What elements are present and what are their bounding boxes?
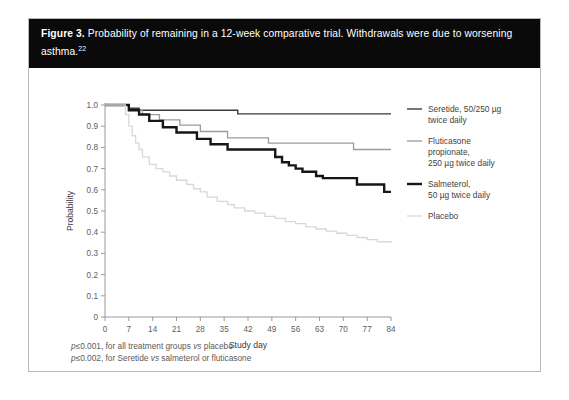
x-axis-title: Study day bbox=[229, 340, 268, 350]
curve-salmeterol bbox=[105, 105, 391, 192]
plot-area: 00.10.20.30.40.50.60.70.80.91.0071421283… bbox=[29, 68, 540, 371]
y-tick-label: 0.2 bbox=[87, 271, 99, 280]
figure-caption-text: Figure 3. Probability of remaining in a … bbox=[41, 26, 528, 59]
y-tick-label: 0.8 bbox=[87, 143, 99, 152]
x-tick-label: 14 bbox=[148, 325, 158, 334]
figure-caption: Probability of remaining in a 12-week co… bbox=[41, 28, 512, 57]
y-tick-label: 0.7 bbox=[87, 165, 99, 174]
x-tick-label: 21 bbox=[172, 325, 182, 334]
survival-chart: 00.10.20.30.40.50.60.70.80.91.0071421283… bbox=[29, 68, 540, 371]
figure-reference-superscript: 22 bbox=[78, 45, 86, 52]
figure-caption-bar: Figure 3. Probability of remaining in a … bbox=[29, 19, 540, 68]
legend-label-placebo: Placebo bbox=[428, 211, 459, 221]
legend-label-seretide: Seretide, 50/250 µg bbox=[428, 104, 502, 114]
legend-label-fluticasone: Fluticasone bbox=[428, 136, 471, 146]
legend-label-fluticasone: 250 µg twice daily bbox=[428, 158, 496, 168]
chart-legend: Seretide, 50/250 µgtwice dailyFluticason… bbox=[407, 104, 502, 221]
y-tick-label: 0.3 bbox=[87, 249, 99, 258]
x-tick-label: 84 bbox=[386, 325, 396, 334]
y-tick-label: 0.5 bbox=[87, 207, 99, 216]
footnote-line: p≤0.002, for Seretide vs salmeterol or f… bbox=[70, 353, 252, 363]
x-tick-label: 35 bbox=[220, 325, 230, 334]
y-tick-label: 0 bbox=[93, 313, 98, 322]
chart-footnotes: p≤0.001, for all treatment groups vs pla… bbox=[70, 341, 252, 363]
x-tick-label: 0 bbox=[103, 325, 108, 334]
y-tick-label: 0.9 bbox=[87, 122, 99, 131]
x-tick-label: 77 bbox=[363, 325, 373, 334]
legend-label-salmeterol: 50 µg twice daily bbox=[428, 190, 491, 200]
figure-card: Figure 3. Probability of remaining in a … bbox=[28, 18, 541, 372]
y-tick-label: 0.6 bbox=[87, 186, 99, 195]
x-tick-label: 63 bbox=[315, 325, 325, 334]
x-tick-label: 42 bbox=[243, 325, 253, 334]
x-tick-label: 7 bbox=[127, 325, 132, 334]
x-tick-label: 56 bbox=[291, 325, 301, 334]
y-tick-label: 0.4 bbox=[87, 228, 99, 237]
legend-label-seretide: twice daily bbox=[428, 115, 467, 125]
x-tick-label: 70 bbox=[339, 325, 349, 334]
footnote-line: p≤0.001, for all treatment groups vs pla… bbox=[70, 341, 233, 351]
legend-label-salmeterol: Salmeterol, bbox=[428, 179, 470, 189]
legend-label-fluticasone: propionate, bbox=[428, 147, 470, 157]
chart-curves bbox=[105, 105, 391, 243]
x-tick-label: 28 bbox=[196, 325, 206, 334]
x-tick-label: 49 bbox=[267, 325, 277, 334]
y-tick-label: 1.0 bbox=[87, 101, 99, 110]
curve-fluticasone bbox=[105, 105, 391, 150]
curve-placebo bbox=[105, 105, 391, 243]
y-tick-label: 0.1 bbox=[87, 292, 99, 301]
figure-root: Figure 3. Probability of remaining in a … bbox=[0, 0, 569, 400]
y-axis-title: Probability bbox=[65, 190, 75, 231]
figure-number: Figure 3. bbox=[41, 28, 85, 39]
curve-seretide bbox=[105, 105, 391, 114]
